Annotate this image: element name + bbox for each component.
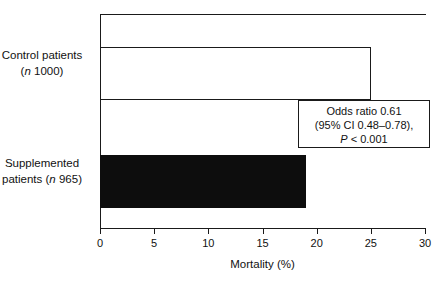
chart-figure: 051015202530 Control patients (n 1000) S… bbox=[0, 0, 442, 288]
x-tick-label: 30 bbox=[410, 237, 440, 250]
category-label-supplemented-line2: patients (n 965) bbox=[0, 171, 102, 187]
category-label-control-patients: Control patients (n 1000) bbox=[0, 47, 102, 79]
x-tick-label: 20 bbox=[302, 237, 332, 250]
x-tick-label: 10 bbox=[193, 237, 223, 250]
paren-open: patients ( bbox=[2, 173, 49, 185]
bar-supplemented-patients bbox=[100, 155, 306, 208]
bar-control-patients bbox=[100, 47, 371, 100]
p-value-rest: < 0.001 bbox=[348, 133, 388, 145]
category-label-control-line2: (n 1000) bbox=[0, 63, 102, 79]
x-tick-label: 5 bbox=[139, 237, 169, 250]
p-italic: P bbox=[340, 133, 347, 145]
x-tick-mark bbox=[317, 229, 318, 234]
x-tick-mark bbox=[371, 229, 372, 234]
x-axis-title: Mortality (%) bbox=[100, 258, 425, 270]
category-label-supplemented-patients: Supplemented patients (n 965) bbox=[0, 155, 102, 187]
annotation-odds-ratio: Odds ratio 0.61 bbox=[299, 104, 429, 118]
plot-top-rule bbox=[100, 14, 426, 15]
x-tick-mark bbox=[425, 229, 426, 234]
x-tick-mark bbox=[100, 229, 101, 234]
x-tick-label: 15 bbox=[248, 237, 278, 250]
annotation-confidence-interval: (95% CI 0.48–0.78), bbox=[299, 118, 429, 132]
x-tick-label: 0 bbox=[85, 237, 115, 250]
annotation-p-value: P < 0.001 bbox=[299, 132, 429, 146]
x-tick-mark bbox=[208, 229, 209, 234]
x-tick-mark bbox=[263, 229, 264, 234]
statistics-annotation-box: Odds ratio 0.61 (95% CI 0.48–0.78), P < … bbox=[298, 100, 430, 148]
category-label-supplemented-line1: Supplemented bbox=[0, 155, 102, 171]
category-label-control-line1: Control patients bbox=[0, 47, 102, 63]
x-tick-mark bbox=[154, 229, 155, 234]
x-tick-label: 25 bbox=[356, 237, 386, 250]
n-value: 1000) bbox=[31, 65, 64, 77]
n-value: 965) bbox=[56, 173, 82, 185]
